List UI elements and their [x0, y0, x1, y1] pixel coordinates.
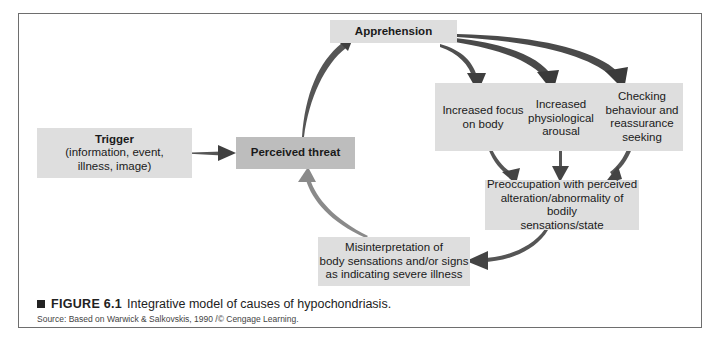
apprehension-title: Apprehension — [355, 25, 432, 39]
figure-caption: FIGURE 6.1Integrative model of causes of… — [37, 297, 391, 311]
perceived-threat-title: Perceived threat — [251, 146, 341, 160]
arrow-preoccupation-to-misinterpretation — [466, 229, 548, 270]
preoccupation-line-1: Preoccupation with perceived — [487, 178, 637, 192]
trigger-detail-1: (information, event, — [65, 146, 163, 160]
preoccupation-box: Preoccupation with perceived alteration/… — [485, 180, 639, 230]
preoccupation-line-3: sensations/state — [520, 219, 603, 233]
arrow-threat-to-apprehension — [302, 30, 356, 137]
checking-line-4: seeking — [600, 131, 684, 145]
arousal-line-3: arousal — [518, 125, 604, 139]
caption-text: Integrative model of causes of hypochond… — [127, 297, 391, 311]
checking-line-3: reassurance — [600, 117, 684, 131]
arrow-misinterpretation-to-threat — [298, 167, 368, 238]
apprehension-box: Apprehension — [330, 20, 457, 43]
trigger-title: Trigger — [95, 133, 134, 147]
caption-square-icon — [37, 300, 45, 308]
preoccupation-line-2: alteration/abnormality of bodily — [485, 192, 639, 219]
focus-line-2: on body — [440, 118, 526, 132]
misinterpretation-line-2: body sensations and/or signs — [320, 255, 469, 269]
misinterpretation-box: Misinterpretation of body sensations and… — [318, 237, 470, 286]
figure-source: Source: Based on Warwick & Salkovskis, 1… — [37, 314, 299, 324]
trigger-box: Trigger (information, event, illness, im… — [37, 128, 192, 178]
perceived-threat-box: Perceived threat — [236, 137, 355, 169]
arrow-arousal-to-preoccupation — [552, 148, 569, 182]
checking-line-2: behaviour and — [600, 104, 684, 118]
checking-line-1: Checking — [600, 90, 684, 104]
figure-label: FIGURE 6.1 — [51, 297, 122, 311]
checking-response: Checking behaviour and reassurance seeki… — [600, 90, 684, 144]
trigger-detail-2: illness, image) — [78, 160, 152, 174]
arousal-line-1: Increased — [518, 98, 604, 112]
arousal-response: Increased physiological arousal — [518, 98, 604, 139]
misinterpretation-line-1: Misinterpretation of — [345, 241, 443, 255]
focus-line-1: Increased focus — [440, 104, 526, 118]
arousal-line-2: physiological — [518, 112, 604, 126]
focus-response: Increased focus on body — [440, 104, 526, 131]
misinterpretation-line-3: as indicating severe illness — [326, 268, 463, 282]
